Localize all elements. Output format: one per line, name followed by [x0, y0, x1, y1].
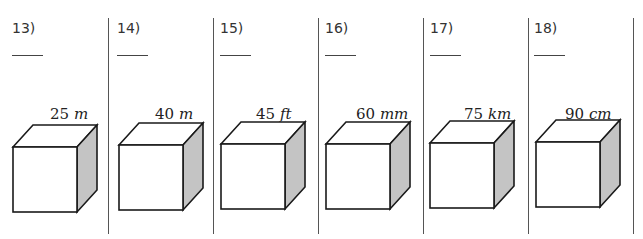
answer-blank[interactable]: [220, 55, 251, 56]
problem-18: 18) 90 cm: [525, 0, 633, 239]
problem-number: 18): [534, 20, 557, 36]
answer-blank[interactable]: [534, 55, 565, 56]
answer-blank[interactable]: [430, 55, 461, 56]
cube-icon: [10, 118, 100, 218]
problem-number: 17): [430, 20, 453, 36]
problem-number: 15): [220, 20, 243, 36]
cube-icon: [116, 118, 206, 218]
problem-13: 13) 25 m: [0, 0, 108, 239]
problem-17: 17) 75 km: [420, 0, 528, 239]
problem-number: 16): [325, 20, 348, 36]
cube-icon: [218, 118, 308, 218]
problem-14: 14) 40 m: [105, 0, 213, 239]
problem-15: 15) 45 ft: [210, 0, 318, 239]
problem-number: 13): [12, 20, 35, 36]
problem-16: 16) 60 mm: [315, 0, 423, 239]
column-divider: [633, 18, 634, 234]
answer-blank[interactable]: [12, 55, 43, 56]
answer-blank[interactable]: [117, 55, 148, 56]
cube-icon: [533, 118, 623, 218]
problem-number: 14): [117, 20, 140, 36]
answer-blank[interactable]: [325, 55, 356, 56]
cube-icon: [323, 118, 413, 218]
cube-icon: [427, 118, 517, 218]
